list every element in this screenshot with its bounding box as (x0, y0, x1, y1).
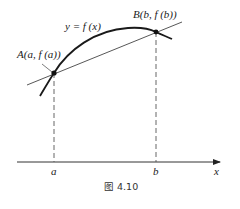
point-b-label: B(b, f (b)) (133, 8, 177, 21)
curve-f (40, 28, 172, 96)
tick-label-a: a (51, 165, 57, 177)
x-axis-label: x (213, 165, 219, 177)
diagram-svg: y = f (x) A(a, f (a)) B(b, f (b)) a b x … (0, 0, 240, 209)
figure-caption: 图 4.10 (104, 181, 138, 192)
tick-label-b: b (153, 165, 159, 177)
point-a-label: A(a, f (a)) (16, 48, 61, 61)
point-a (51, 70, 56, 75)
curve-label: y = f (x) (64, 20, 101, 33)
mean-value-theorem-figure: y = f (x) A(a, f (a)) B(b, f (b)) a b x … (0, 0, 240, 209)
point-b (154, 30, 159, 35)
label-a-leader (42, 64, 52, 72)
